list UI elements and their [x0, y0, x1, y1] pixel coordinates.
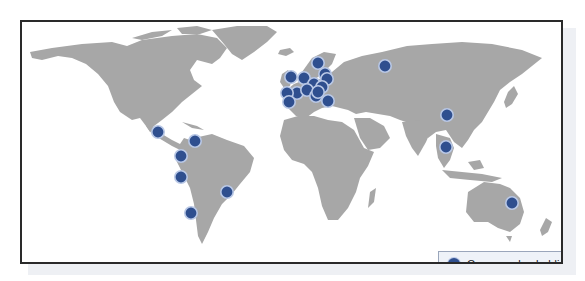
land-new-zealand: [540, 218, 552, 236]
land-north-america: [30, 34, 227, 132]
legend-marker-icon: [448, 258, 460, 264]
holding-marker: Southern Brazil: [221, 186, 233, 198]
holding-marker: Ecuador/Colombia: [175, 150, 187, 162]
holding-marker: Chile/Argentina: [185, 207, 197, 219]
map-legend: Car care plan holdings: [438, 251, 563, 264]
holding-marker: Peru: [175, 171, 187, 183]
legend-label: Car care plan holdings: [467, 258, 563, 264]
holding-marker: Central America: [152, 126, 164, 138]
map-frame: Central AmericaNorthern South AmericaEcu…: [20, 20, 563, 264]
holding-marker: Iberia: [283, 96, 295, 108]
land-tasmania: [506, 236, 512, 242]
holding-marker: Southeast Asia: [440, 141, 452, 153]
holding-marker: Scandinavia: [312, 57, 324, 69]
holding-marker: Turkey: [322, 95, 334, 107]
land-caribbean: [182, 122, 204, 130]
land-indonesia: [442, 160, 502, 182]
land-india: [402, 120, 432, 156]
holding-marker: Australia: [506, 197, 518, 209]
holding-marker: Northern South America: [189, 135, 201, 147]
land-masses: [30, 26, 552, 244]
land-south-america: [176, 134, 254, 244]
world-map: Central AmericaNorthern South AmericaEcu…: [22, 22, 563, 264]
land-madagascar: [368, 188, 376, 208]
land-japan: [504, 86, 518, 108]
holding-marker: China: [441, 109, 453, 121]
holding-marker: Russia: [379, 60, 391, 72]
holding-marker: United Kingdom: [285, 71, 297, 83]
holding-marker: Eastern Europe: [312, 86, 324, 98]
land-iceland: [278, 48, 294, 56]
